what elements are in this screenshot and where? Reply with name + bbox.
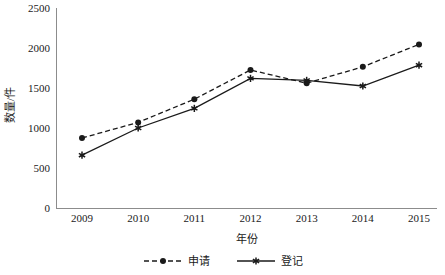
x-tick-label: 2015 xyxy=(408,212,430,225)
x-axis-title: 年份 xyxy=(56,230,437,246)
data-point-star-marker xyxy=(191,105,197,112)
series-layer xyxy=(56,8,437,208)
data-point-circle-marker xyxy=(360,64,366,70)
series-2 xyxy=(79,62,422,159)
series-1 xyxy=(79,41,422,141)
x-tick-label: 2009 xyxy=(71,212,93,225)
x-axis-tick-labels: 2009201020112012201320142015 xyxy=(56,212,437,228)
legend-item-2[interactable]: 登记 xyxy=(236,255,303,267)
data-point-star-marker xyxy=(135,124,141,131)
line-chart: 数量/件 05001000150020002500 20092010201120… xyxy=(0,0,445,275)
data-point-star-marker xyxy=(79,152,85,159)
y-axis-title-text: 数量/件 xyxy=(1,87,17,123)
x-tick-label: 2014 xyxy=(352,212,374,225)
y-tick-label: 500 xyxy=(34,163,51,174)
legend-label: 登记 xyxy=(281,255,303,267)
legend-solid-line-icon xyxy=(236,255,276,267)
chart-legend: 申请登记 xyxy=(0,251,445,271)
y-tick-label: 1000 xyxy=(28,123,50,134)
data-point-circle-marker xyxy=(248,67,254,73)
y-tick-label: 1500 xyxy=(28,83,50,94)
legend-label: 申请 xyxy=(188,255,210,267)
plot-area xyxy=(56,8,437,208)
x-tick-label: 2013 xyxy=(296,212,318,225)
legend-dashed-line-icon xyxy=(143,255,183,267)
x-axis-line xyxy=(56,208,437,209)
y-axis-tick-labels: 05001000150020002500 xyxy=(18,0,54,215)
data-point-circle-marker xyxy=(79,135,85,141)
data-point-circle-marker xyxy=(160,258,166,264)
x-tick-label: 2010 xyxy=(127,212,149,225)
x-tick-label: 2011 xyxy=(184,212,206,225)
data-point-circle-marker xyxy=(416,41,422,47)
y-tick-label: 2000 xyxy=(28,43,50,54)
y-tick-label: 0 xyxy=(45,203,51,214)
series-line xyxy=(82,44,419,138)
y-axis-title: 数量/件 xyxy=(0,0,18,210)
data-point-circle-marker xyxy=(191,96,197,102)
data-point-star-marker xyxy=(416,62,422,69)
x-tick-label: 2012 xyxy=(240,212,262,225)
legend-item-1[interactable]: 申请 xyxy=(143,255,210,267)
y-tick-label: 2500 xyxy=(28,3,50,14)
